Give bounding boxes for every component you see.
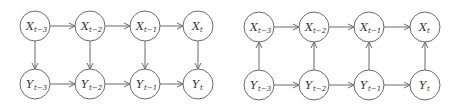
- svg-text:t−3: t−3: [34, 26, 48, 34]
- node-y-t-2: Y t−2: [299, 70, 329, 100]
- svg-text:t−1: t−1: [144, 26, 157, 34]
- node-y-t-3: Y t−3: [244, 70, 274, 100]
- left-diagram: X t−3 X t−2 X t−1 X t Y t−3 Y t−2: [20, 11, 213, 99]
- svg-text:t−2: t−2: [313, 85, 327, 93]
- node-y-t: Y t: [183, 69, 213, 99]
- node-y-t: Y t: [410, 70, 440, 100]
- node-x-t-1: X t−1: [354, 12, 384, 42]
- svg-text:t−3: t−3: [258, 27, 272, 35]
- svg-text:t−3: t−3: [34, 84, 48, 92]
- svg-text:t−2: t−2: [313, 27, 327, 35]
- svg-text:t−1: t−1: [368, 27, 381, 35]
- svg-text:t−1: t−1: [144, 84, 157, 92]
- node-x-t-2: X t−2: [75, 11, 105, 41]
- svg-text:t: t: [427, 27, 430, 35]
- svg-text:t: t: [200, 26, 203, 34]
- node-x-t: X t: [183, 11, 213, 41]
- causal-diagrams: X t−3 X t−2 X t−1 X t Y t−3 Y t−2: [0, 0, 461, 108]
- right-diagram: X t−3 X t−2 X t−1 X t Y t−3 Y t−2: [244, 12, 440, 100]
- svg-text:t−1: t−1: [368, 85, 381, 93]
- svg-text:t: t: [427, 85, 430, 93]
- svg-text:t−2: t−2: [89, 26, 103, 34]
- node-x-t-3: X t−3: [20, 11, 50, 41]
- node-x-t: X t: [410, 12, 440, 42]
- svg-text:t−2: t−2: [89, 84, 103, 92]
- node-x-t-2: X t−2: [299, 12, 329, 42]
- node-y-t-3: Y t−3: [20, 69, 50, 99]
- node-x-t-1: X t−1: [130, 11, 160, 41]
- svg-text:t: t: [200, 84, 203, 92]
- node-y-t-1: Y t−1: [354, 70, 384, 100]
- node-x-t-3: X t−3: [244, 12, 274, 42]
- node-y-t-1: Y t−1: [130, 69, 160, 99]
- svg-text:t−3: t−3: [258, 85, 272, 93]
- node-y-t-2: Y t−2: [75, 69, 105, 99]
